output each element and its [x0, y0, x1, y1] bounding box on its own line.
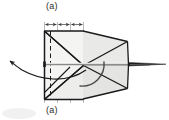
left-edge-nib [43, 62, 46, 68]
label-bottom: (a) [46, 105, 58, 115]
label-top: (a) [46, 1, 58, 11]
watermark-smudge [2, 108, 36, 119]
technical-drawing-figure [0, 0, 169, 120]
